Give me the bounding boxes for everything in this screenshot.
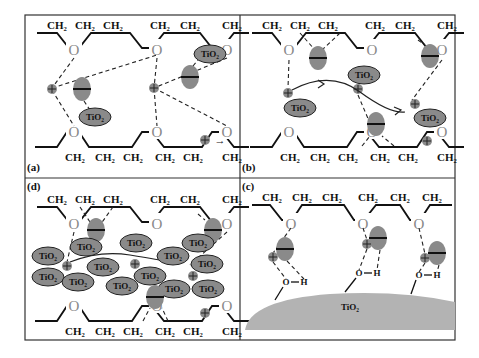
coordination-bond [52, 90, 74, 126]
ch2-group: CH₂ [437, 19, 458, 31]
hydroxyl-hydrogen: H [373, 268, 380, 278]
tio2-label: TiO₂ [199, 284, 217, 294]
tio2-label: TiO₂ [165, 284, 183, 294]
ch2-group: CH₂ [365, 19, 386, 31]
ch2-group: CH₂ [222, 193, 243, 205]
panel-b: OOOCH₂CH₂CH₂CH₂CH₂CH₂OOOCH₂CH₂CH₂CH₂CH₂C… [250, 19, 464, 163]
coordination-bond [143, 308, 150, 321]
hydroxyl-oxygen: O [415, 270, 422, 280]
ch2-group: CH₂ [103, 193, 124, 205]
ch2-group: CH₂ [95, 325, 116, 337]
ch2-group: CH₂ [180, 19, 201, 31]
ch2-group: CH₂ [262, 191, 283, 203]
peo-tio2-mechanism-diagram: (a) (b) (d) (c) OOOCH₂CH₂CH₂CH₂CH₂CH₂OOO… [0, 0, 479, 358]
ch2-group: CH₂ [290, 19, 311, 31]
ch2-group: CH₂ [222, 19, 243, 31]
ch2-group: CH₂ [262, 19, 283, 31]
tio2-label: TiO₂ [39, 272, 57, 282]
ch2-group: CH₂ [183, 325, 204, 337]
surface-bond [275, 287, 283, 300]
coordination-bond [322, 33, 340, 50]
surface-bond [411, 280, 416, 294]
hydroxyl-oxygen: O [355, 268, 362, 278]
tio2-label: TiO₂ [77, 242, 95, 252]
tio2-label: TiO₂ [198, 259, 216, 269]
ether-oxygen: O [152, 124, 163, 140]
ch2-group: CH₂ [150, 193, 171, 205]
ether-oxygen: O [286, 216, 297, 232]
bond [193, 60, 198, 66]
tio2-label: TiO₂ [201, 49, 219, 59]
panel-d: OOOCH₂CH₂CH₂CH₂CH₂CH₂OOOCH₂CH₂CH₂CH₂CH₂C… [32, 193, 249, 337]
coordination-bond [300, 33, 315, 50]
ch2-group: CH₂ [398, 151, 419, 163]
coordination-bond [52, 55, 157, 88]
ch2-group: CH₂ [358, 191, 379, 203]
hydroxyl-hydrogen: H [300, 277, 307, 287]
panel-c: TiO₂OOOCH₂CH₂CH₂CH₂CH₂CH₂OHOHOH [245, 191, 455, 330]
ch2-group: CH₂ [318, 19, 339, 31]
coordination-bond [154, 88, 157, 126]
ch2-group: CH₂ [155, 151, 176, 163]
ch2-group: CH₂ [222, 325, 243, 337]
ch2-group: CH₂ [155, 325, 176, 337]
ether-oxygen: O [284, 124, 295, 140]
ch2-group: CH₂ [222, 151, 243, 163]
ether-oxygen: O [69, 124, 80, 140]
tio2-label: TiO₂ [164, 251, 182, 261]
tio2-label: TiO₂ [69, 277, 87, 287]
ch2-group: CH₂ [338, 151, 359, 163]
ether-oxygen: O [284, 42, 295, 58]
ether-oxygen: O [222, 216, 233, 232]
tio2-label: TiO₂ [94, 262, 112, 272]
coordination-bond [288, 60, 289, 88]
coordination-bond [359, 249, 367, 270]
arrow-icon: → [215, 134, 226, 146]
ch2-group: CH₂ [183, 151, 204, 163]
ch2-group: CH₂ [123, 325, 144, 337]
hydroxyl-hydrogen: H [433, 270, 440, 280]
ch2-group: CH₂ [150, 19, 171, 31]
ch2-group: CH₂ [370, 151, 391, 163]
ch2-group: CH₂ [123, 151, 144, 163]
ether-oxygen: O [69, 298, 80, 314]
ch2-group: CH₂ [292, 191, 313, 203]
ch2-group: CH₂ [390, 191, 411, 203]
tio2-label: TiO₂ [189, 238, 207, 248]
coordination-bond [198, 214, 205, 220]
tio2-label: TiO₂ [355, 70, 373, 80]
ch2-group: CH₂ [422, 191, 443, 203]
ch2-group: CH₂ [437, 151, 458, 163]
ch2-group: CH₂ [280, 151, 301, 163]
tio2-label: TiO₂ [113, 281, 131, 291]
ch2-group: CH₂ [180, 193, 201, 205]
coordination-bond [154, 88, 227, 126]
tio2-label: TiO₂ [39, 251, 57, 261]
tio2-label: TiO₂ [127, 238, 145, 248]
ch2-group: CH₂ [395, 19, 416, 31]
ether-oxygen: O [69, 216, 80, 232]
ether-oxygen: O [69, 42, 80, 58]
ether-oxygen: O [152, 216, 163, 232]
ch2-group: CH₂ [47, 193, 68, 205]
panel-a: OOOCH₂CH₂CH₂CH₂CH₂CH₂OOOCH₂CH₂CH₂CH₂CH₂C… [35, 19, 249, 163]
tio2-label: TiO₂ [421, 113, 439, 123]
tio2-label: TiO₂ [86, 112, 104, 122]
ch2-group: CH₂ [65, 325, 86, 337]
ch2-group: CH₂ [65, 151, 86, 163]
tio2-label: TiO₂ [291, 103, 309, 113]
ether-oxygen: O [222, 298, 233, 314]
ch2-group: CH₂ [103, 19, 124, 31]
panel-label-c: (c) [242, 180, 255, 193]
ch2-group: CH₂ [75, 19, 96, 31]
panel-label-a: (a) [27, 161, 40, 174]
coordination-bond [382, 136, 394, 146]
coordination-bond [377, 250, 380, 270]
ether-oxygen: O [152, 42, 163, 58]
panel-label-d: (d) [27, 180, 41, 193]
ch2-group: CH₂ [310, 151, 331, 163]
ch2-group: CH₂ [95, 151, 116, 163]
ch2-group: CH₂ [75, 193, 96, 205]
surface-bond [345, 278, 356, 292]
ether-oxygen: O [437, 124, 448, 140]
